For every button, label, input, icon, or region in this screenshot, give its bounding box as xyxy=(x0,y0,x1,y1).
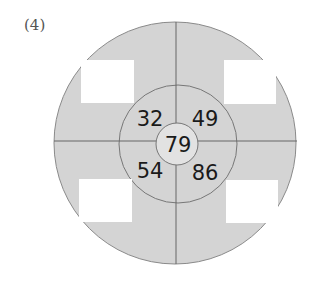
value-bottom-right: 86 xyxy=(192,161,219,185)
answer-box-bottom-right[interactable] xyxy=(226,180,278,223)
answer-box-top-left[interactable] xyxy=(81,60,134,103)
answer-box-top-right[interactable] xyxy=(224,60,276,104)
value-center: 79 xyxy=(165,133,192,157)
value-top-left: 32 xyxy=(137,107,164,131)
target-circle-diagram: 32 49 79 54 86 xyxy=(0,0,316,283)
answer-box-bottom-left[interactable] xyxy=(79,179,132,222)
value-top-right: 49 xyxy=(192,107,219,131)
value-bottom-left: 54 xyxy=(137,159,164,183)
